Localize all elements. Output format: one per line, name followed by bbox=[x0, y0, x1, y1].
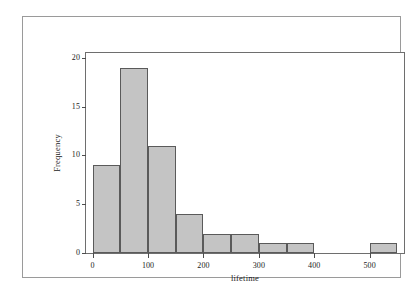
plot-surface: 05101520 0100200300400500 bbox=[86, 53, 404, 253]
histogram-bar bbox=[370, 243, 398, 253]
y-tick-mark bbox=[82, 107, 86, 108]
y-tick-label: 15 bbox=[72, 101, 80, 112]
x-tick-label: 400 bbox=[308, 260, 320, 271]
x-tick-mark bbox=[203, 253, 204, 258]
x-tick-mark bbox=[370, 253, 371, 258]
histogram-bar bbox=[259, 243, 287, 253]
x-tick-mark bbox=[148, 253, 149, 258]
y-tick-label: 20 bbox=[72, 52, 80, 63]
plot-area: 05101520 0100200300400500 bbox=[85, 52, 405, 254]
x-axis-title: lifetime bbox=[85, 273, 405, 283]
figure-border: Frequency 05101520 0100200300400500 life… bbox=[22, 16, 401, 278]
x-tick-label: 0 bbox=[91, 260, 95, 271]
x-tick-mark bbox=[314, 253, 315, 258]
y-tick-mark bbox=[82, 155, 86, 156]
y-tick-mark bbox=[82, 204, 86, 205]
histogram-bar bbox=[176, 214, 204, 253]
histogram-bar bbox=[148, 146, 176, 253]
x-tick-label: 100 bbox=[142, 260, 154, 271]
y-tick-label: 5 bbox=[76, 198, 80, 209]
histogram-bar bbox=[203, 234, 231, 254]
y-tick-label: 0 bbox=[76, 247, 80, 258]
x-tick-label: 500 bbox=[363, 260, 375, 271]
histogram-bar bbox=[287, 243, 315, 253]
x-axis-title-text: lifetime bbox=[231, 273, 259, 283]
histogram-bar bbox=[231, 234, 259, 254]
y-tick-label: 10 bbox=[72, 149, 80, 160]
x-tick-label: 300 bbox=[253, 260, 265, 271]
x-tick-mark bbox=[93, 253, 94, 258]
histogram-bar bbox=[120, 68, 148, 253]
y-tick-mark bbox=[82, 253, 86, 254]
x-tick-label: 200 bbox=[197, 260, 209, 271]
histogram-bar bbox=[93, 165, 121, 253]
y-axis-title: Frequency bbox=[51, 52, 63, 254]
x-tick-mark bbox=[259, 253, 260, 258]
y-tick-mark bbox=[82, 58, 86, 59]
y-axis-title-text: Frequency bbox=[52, 134, 62, 172]
